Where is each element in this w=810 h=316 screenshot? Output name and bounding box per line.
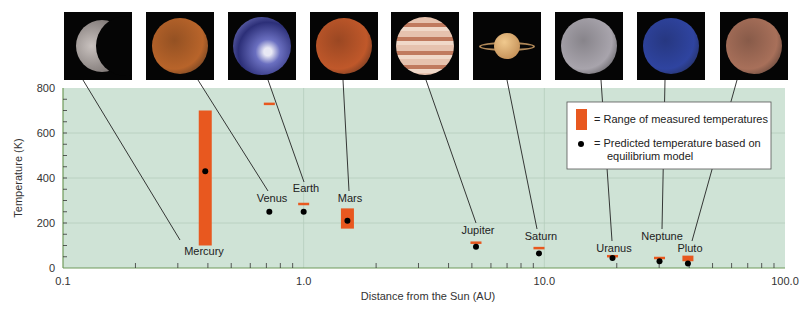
planet-label-mars: Mars <box>338 192 363 204</box>
planet-image-jupiter <box>391 12 459 80</box>
range-bar-earth <box>298 203 309 206</box>
predicted-dot-venus <box>266 209 272 215</box>
range-bar-venus <box>264 103 275 106</box>
x-tick-label: 1.0 <box>296 275 311 287</box>
range-bar-mercury <box>199 111 212 246</box>
x-axis-title: Distance from the Sun (AU) <box>361 290 496 302</box>
planet-label-mercury: Mercury <box>184 245 224 257</box>
x-tick-label: 100.0 <box>771 275 799 287</box>
predicted-dot-jupiter <box>473 244 479 250</box>
range-bar-saturn <box>533 247 544 250</box>
legend-dot-label-cont: equilibrium model <box>607 150 693 162</box>
planet-label-uranus: Uranus <box>596 242 632 254</box>
planet-image-saturn <box>473 12 541 80</box>
range-bar-pluto <box>682 256 693 262</box>
y-axis-title: Temperature (K) <box>12 138 24 217</box>
planet-image-mercury <box>64 12 132 80</box>
predicted-dot-saturn <box>536 250 542 256</box>
planet-label-jupiter: Jupiter <box>461 224 494 236</box>
legend-range-label: = Range of measured temperatures <box>594 113 768 125</box>
legend-dot-swatch <box>578 141 584 147</box>
planet-image-earth <box>228 12 296 80</box>
planet-label-venus: Venus <box>257 192 288 204</box>
predicted-dot-pluto <box>685 261 691 267</box>
planet-image-mars <box>310 12 378 80</box>
planet-image-uranus <box>555 12 623 80</box>
y-tick-label: 400 <box>37 172 55 184</box>
legend-range-swatch <box>576 109 587 130</box>
predicted-dot-mercury <box>202 168 208 174</box>
range-bar-jupiter <box>470 241 481 244</box>
planet-label-earth: Earth <box>293 182 319 194</box>
planet-label-saturn: Saturn <box>525 230 557 242</box>
planet-image-venus <box>146 12 214 80</box>
planet-image-pluto <box>720 12 788 80</box>
legend-dot-label: = Predicted temperature based on <box>594 137 761 149</box>
y-tick-label: 0 <box>49 262 55 274</box>
predicted-dot-neptune <box>657 258 663 264</box>
y-tick-label: 200 <box>37 217 55 229</box>
planet-label-neptune: Neptune <box>641 230 683 242</box>
y-tick-label: 600 <box>37 127 55 139</box>
predicted-dot-earth <box>301 209 307 215</box>
legend: = Range of measured temperatures = Predi… <box>567 102 771 169</box>
x-tick-label: 0.1 <box>55 275 70 287</box>
x-tick-label: 10.0 <box>534 275 555 287</box>
predicted-dot-mars <box>344 218 350 224</box>
y-tick-label: 800 <box>37 82 55 94</box>
planet-label-pluto: Pluto <box>677 242 702 254</box>
predicted-dot-uranus <box>610 255 616 261</box>
planet-image-neptune <box>637 12 705 80</box>
